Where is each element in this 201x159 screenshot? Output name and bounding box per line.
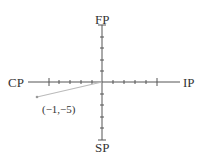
point-label: (−1,−5) — [42, 104, 75, 115]
label-sp: SP — [95, 141, 109, 154]
label-ip: IP — [183, 76, 195, 89]
label-fp: FP — [95, 13, 109, 26]
vector-line — [37, 82, 102, 97]
data-point — [36, 96, 39, 99]
label-cp: CP — [8, 76, 24, 89]
